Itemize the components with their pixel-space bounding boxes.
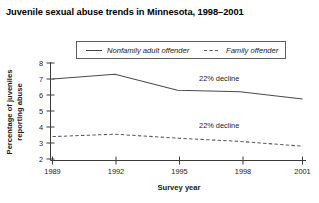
chart-axes [51,62,307,161]
y-axis-title-line1: Percentage of juveniles [5,70,14,155]
y-tick-label-4: 4 [39,123,43,132]
annotation-decline-nonfamily: 22% decline [199,74,239,83]
x-tick-label-1989: 1989 [44,167,60,176]
legend-label-nonfamily-adult-offender: Nonfamily adult offender [107,46,190,55]
chart-legend: Nonfamily adult offender Family offender [77,42,286,59]
line-chart-canvas: Nonfamily adult offender Family offender… [0,0,319,203]
y-tick-label-8: 8 [39,59,43,68]
x-axis-title: Survey year [157,183,200,192]
y-tick-label-6: 6 [39,91,43,100]
series-line-family-offender [53,134,303,146]
y-tick-label-7: 7 [39,75,43,84]
x-tick-label-2001: 2001 [294,167,310,176]
legend-label-family-offender: Family offender [226,46,279,55]
y-axis-title-line2: reporting abuse [15,83,24,140]
series-line-nonfamily-adult-offender [53,74,303,99]
x-tick-label-1995: 1995 [171,167,187,176]
x-tick-label-1998: 1998 [235,167,251,176]
annotation-decline-family: 22% decline [199,121,239,130]
y-axis-title: Percentage of juveniles reporting abuse [5,70,24,155]
chart-figure: Juvenile sexual abuse trends in Minnesot… [0,0,319,203]
x-axis-ticks: 1989 1992 1995 1998 2001 [44,157,310,177]
y-tick-label-3: 3 [39,139,43,148]
y-axis-ticks: 8 7 6 5 4 3 2 [39,59,55,164]
y-tick-label-5: 5 [39,107,43,116]
axis-lines [51,62,307,161]
x-tick-label-1992: 1992 [108,167,124,176]
y-tick-label-2: 2 [39,155,43,164]
